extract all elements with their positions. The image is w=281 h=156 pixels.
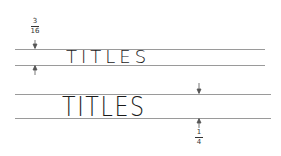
dimension-arrows (0, 0, 281, 156)
arrow-down-icon (197, 83, 201, 94)
arrow-up-icon (197, 119, 201, 129)
arrow-up-icon (33, 66, 37, 76)
arrow-down-icon (33, 40, 37, 49)
